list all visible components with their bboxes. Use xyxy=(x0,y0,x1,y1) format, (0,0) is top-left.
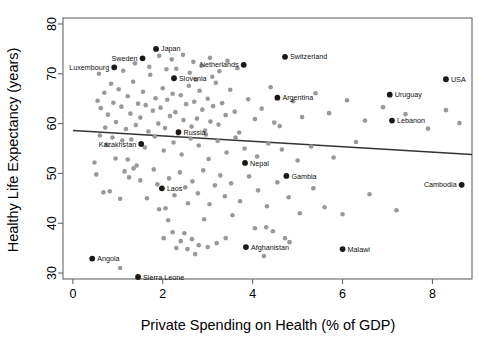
data-point xyxy=(201,168,206,173)
data-point xyxy=(101,190,106,195)
highlighted-data-point xyxy=(241,62,247,68)
data-point xyxy=(171,140,176,145)
highlighted-data-point xyxy=(274,95,280,101)
highlighted-data-point xyxy=(283,173,289,179)
data-point xyxy=(156,121,161,126)
x-tick-label: 2 xyxy=(159,287,166,301)
x-tick-label: 0 xyxy=(69,287,76,301)
data-point xyxy=(256,188,261,193)
data-point xyxy=(218,173,223,178)
data-point-label: Cambodia xyxy=(424,180,457,189)
y-tick-label: 70 xyxy=(45,67,59,81)
data-point xyxy=(164,67,169,72)
data-point-label: Switzerland xyxy=(290,52,327,61)
data-point-label: Uruguay xyxy=(395,90,423,99)
data-point xyxy=(197,88,202,93)
data-point xyxy=(259,106,264,111)
data-point xyxy=(174,67,179,72)
data-point-label: Russia xyxy=(184,128,206,137)
data-point xyxy=(157,207,162,212)
data-point xyxy=(178,239,183,244)
data-point xyxy=(103,125,108,130)
data-point xyxy=(311,186,316,191)
data-point xyxy=(134,163,139,168)
data-point xyxy=(190,179,195,184)
highlighted-data-point xyxy=(89,256,95,262)
data-point xyxy=(166,218,171,223)
data-point xyxy=(152,134,157,139)
data-point xyxy=(363,118,368,123)
data-point-label: Lebanon xyxy=(397,116,425,125)
data-point xyxy=(211,104,216,109)
data-point xyxy=(163,126,168,131)
data-point xyxy=(187,83,192,88)
data-point xyxy=(230,213,235,218)
data-point xyxy=(113,156,118,161)
data-point xyxy=(118,197,123,202)
highlighted-data-point xyxy=(387,92,393,98)
y-tick-label: 60 xyxy=(45,117,59,131)
data-point xyxy=(146,129,151,134)
data-point xyxy=(283,236,288,241)
data-point xyxy=(205,245,210,250)
x-axis-title: Private Spending on Health (% of GDP) xyxy=(141,317,396,333)
data-point xyxy=(228,87,233,92)
data-point xyxy=(98,106,103,111)
highlighted-data-point xyxy=(138,141,144,147)
data-point xyxy=(151,108,156,113)
data-point xyxy=(184,102,189,107)
data-point xyxy=(145,196,150,201)
data-point xyxy=(95,98,100,103)
data-point xyxy=(116,87,121,92)
data-point-label: Angola xyxy=(97,254,119,263)
data-point xyxy=(181,118,186,123)
data-point xyxy=(163,206,168,211)
data-point xyxy=(157,54,162,59)
highlighted-data-point xyxy=(111,64,117,70)
data-point xyxy=(345,98,350,103)
data-point xyxy=(298,211,303,216)
data-point xyxy=(125,157,130,162)
data-point xyxy=(170,230,175,235)
x-tick-label: 4 xyxy=(249,287,256,301)
data-point xyxy=(131,79,136,84)
data-point xyxy=(202,217,207,222)
data-point xyxy=(134,123,139,128)
data-point xyxy=(165,97,170,102)
data-point xyxy=(111,100,116,105)
data-point xyxy=(102,90,107,95)
data-point xyxy=(253,226,258,231)
data-point xyxy=(280,147,285,152)
data-point xyxy=(224,150,229,155)
data-point-label: Malawi xyxy=(348,245,371,254)
scatter-plot-svg: SwedenJapanLuxembourgSloveniaNetherlands… xyxy=(0,0,486,339)
data-point xyxy=(237,130,242,135)
data-point xyxy=(196,143,201,148)
data-point xyxy=(121,69,126,74)
data-point xyxy=(277,124,282,129)
data-point xyxy=(217,69,222,74)
data-point xyxy=(207,202,212,207)
data-point-label: Sierra Leone xyxy=(143,273,184,282)
data-point xyxy=(106,112,111,117)
y-tick-label: 40 xyxy=(45,216,59,230)
data-point xyxy=(193,252,198,257)
data-point xyxy=(122,169,127,174)
data-point xyxy=(247,174,252,179)
data-point xyxy=(97,71,102,76)
y-tick-label: 80 xyxy=(45,17,59,31)
data-point xyxy=(223,236,228,241)
data-point xyxy=(161,148,166,153)
y-tick-label: 30 xyxy=(45,266,59,280)
highlighted-data-point xyxy=(140,55,146,61)
data-point xyxy=(174,246,179,251)
data-point-label: Afghanistan xyxy=(251,243,289,252)
data-point xyxy=(275,180,280,185)
data-point xyxy=(188,136,193,141)
data-point xyxy=(268,85,273,90)
data-point xyxy=(161,236,166,241)
data-point-label: Slovenia xyxy=(179,74,207,83)
data-point xyxy=(313,91,318,96)
data-point xyxy=(92,160,97,165)
data-point xyxy=(155,182,160,187)
